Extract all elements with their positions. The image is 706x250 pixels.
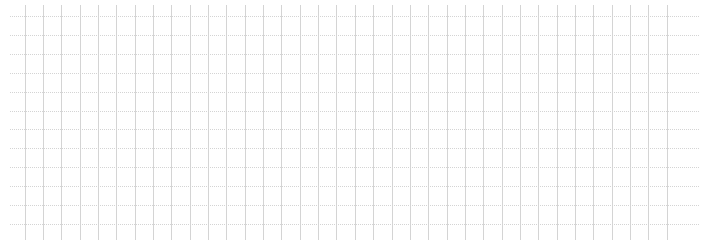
grid-canvas — [0, 0, 706, 250]
